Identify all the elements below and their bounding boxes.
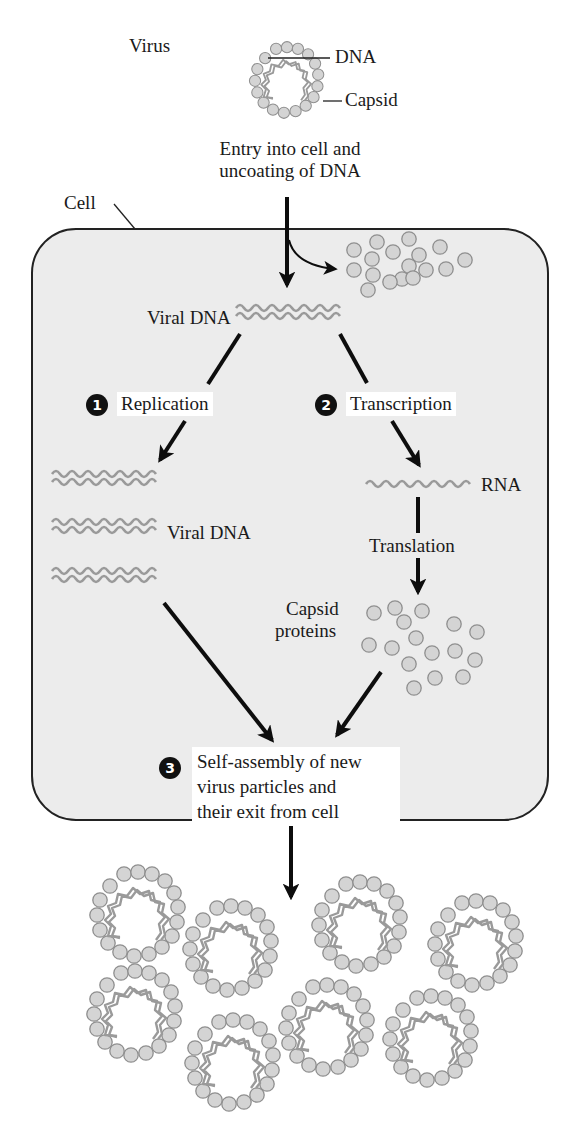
step-3-assembly-label: Self-assembly of new virus particles and… [192,747,400,826]
step-3-line-2: virus particles and [197,774,395,799]
replicated-viral-dna-label: Viral DNA [167,522,251,544]
step-2-badge: 2 [315,394,337,416]
virion-8 [383,989,478,1087]
cell-leader-line [114,204,135,229]
released-virions [87,865,523,1111]
cell-label: Cell [64,192,96,214]
capsid-proteins-label-line-2: proteins [275,620,365,642]
virion-7 [279,978,374,1076]
rna-label: RNA [481,474,521,496]
virus-replication-diagram: Virus DNA Capsid Entry into cell and unc… [0,0,576,1131]
capsid-proteins-label: Capsid proteins [275,598,365,642]
capsid-label: Capsid [345,89,398,111]
virion-5 [87,964,182,1062]
step-3-line-1: Self-assembly of new [197,749,395,774]
viral-dna-label: Viral DNA [147,307,231,329]
step-2-transcription-label: Transcription [346,392,456,416]
virus-illustration [249,42,323,119]
virion-3 [312,875,407,973]
step-3-line-3: their exit from cell [197,799,395,824]
virion-6 [185,1013,280,1111]
entry-label-line-1: Entry into cell and [190,138,390,160]
step-1-replication-label: Replication [117,392,213,416]
step-1-badge: 1 [86,394,108,416]
dna-label: DNA [335,46,376,68]
entry-label-line-2: uncoating of DNA [190,160,390,182]
virion-2 [183,899,278,997]
entry-label: Entry into cell and uncoating of DNA [190,138,390,182]
virus-label: Virus [129,35,170,57]
capsid-proteins-label-line-1: Capsid [275,598,365,620]
virion-1 [90,865,185,963]
step-3-badge: 3 [159,757,181,779]
translation-label: Translation [369,535,455,557]
virion-4 [428,894,523,992]
